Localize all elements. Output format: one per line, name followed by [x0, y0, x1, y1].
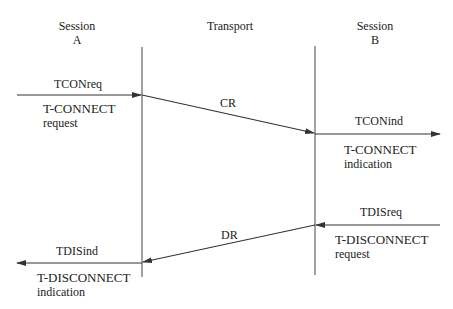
session-a-letter: A [52, 33, 102, 47]
tdisind-desc: T-DISCONNECT indication [37, 271, 130, 299]
tconreq-label: TCONreq [54, 77, 102, 91]
tdisreq-label: TDISreq [360, 205, 402, 219]
tconreq-desc: T-CONNECT request [43, 102, 115, 130]
tconind-desc: T-CONNECT indication [344, 143, 416, 171]
cr-label: CR [220, 96, 236, 110]
session-a-title: Session [52, 19, 102, 33]
session-b-title: Session [350, 19, 400, 33]
tconind-label: TCONind [355, 114, 403, 128]
session-a-header: Session A [52, 19, 102, 47]
tdisreq-desc: T-DISCONNECT request [335, 233, 428, 261]
tdisind-label: TDISind [56, 244, 98, 258]
session-b-letter: B [350, 33, 400, 47]
dr-label: DR [221, 228, 238, 242]
transport-header: Transport [190, 19, 270, 33]
session-b-header: Session B [350, 19, 400, 47]
